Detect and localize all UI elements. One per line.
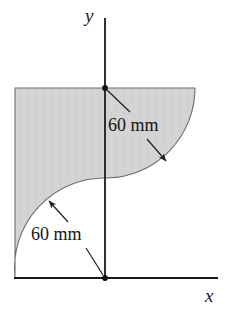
lower-dimension-leader-to-arc: [49, 201, 68, 222]
y-axis-label: y: [85, 6, 93, 25]
dimension-label-lower-radius: 60 mm: [31, 225, 82, 243]
lower-dimension-leader-to-origin: [86, 248, 103, 275]
figure-canvas: y x 60 mm 60 mm: [0, 0, 231, 312]
figure-svg: [0, 0, 231, 312]
dimension-label-upper-radius: 60 mm: [108, 116, 159, 134]
origin-point-dot: [102, 275, 108, 281]
x-axis-label: x: [205, 286, 213, 305]
